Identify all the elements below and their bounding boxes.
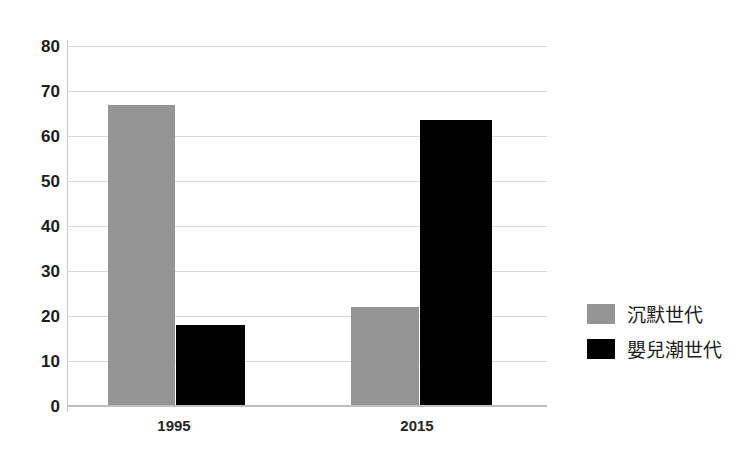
legend-label-silent: 沉默世代 [627, 300, 703, 327]
y-tick-label-0: 0 [8, 398, 60, 415]
y-axis-ticks: 80 70 60 50 40 30 20 10 0 [0, 0, 60, 460]
legend-swatch-icon-silent [587, 304, 615, 324]
legend-label-boomer: 嬰兒潮世代 [627, 335, 722, 362]
y-tick-label-40: 40 [8, 218, 60, 235]
x-tick-label-1995: 1995 [104, 418, 244, 433]
bar-2015-silent[interactable] [351, 307, 419, 406]
legend-item-silent-generation[interactable]: 沉默世代 [587, 296, 722, 331]
legend-item-baby-boomer[interactable]: 嬰兒潮世代 [587, 331, 722, 366]
gridline-70 [67, 91, 547, 92]
y-tick-label-60: 60 [8, 128, 60, 145]
y-tick-label-30: 30 [8, 263, 60, 280]
y-tick-label-20: 20 [8, 308, 60, 325]
gridline-80 [67, 46, 547, 47]
bar-chart: 80 70 60 50 40 30 20 10 0 1995 2015 沉默世代… [0, 0, 745, 460]
bar-2015-boomer[interactable] [420, 120, 492, 406]
y-tick-label-80: 80 [8, 38, 60, 55]
bar-1995-boomer[interactable] [176, 325, 245, 406]
legend: 沉默世代 嬰兒潮世代 [587, 296, 722, 366]
legend-swatch-icon-boomer [587, 339, 615, 359]
y-tick-label-50: 50 [8, 173, 60, 190]
y-tick-label-70: 70 [8, 83, 60, 100]
y-tick-label-10: 10 [8, 353, 60, 370]
bar-1995-silent[interactable] [108, 105, 175, 407]
x-axis-line [67, 405, 547, 407]
plot-area [67, 46, 547, 406]
x-tick-label-2015: 2015 [347, 418, 487, 433]
